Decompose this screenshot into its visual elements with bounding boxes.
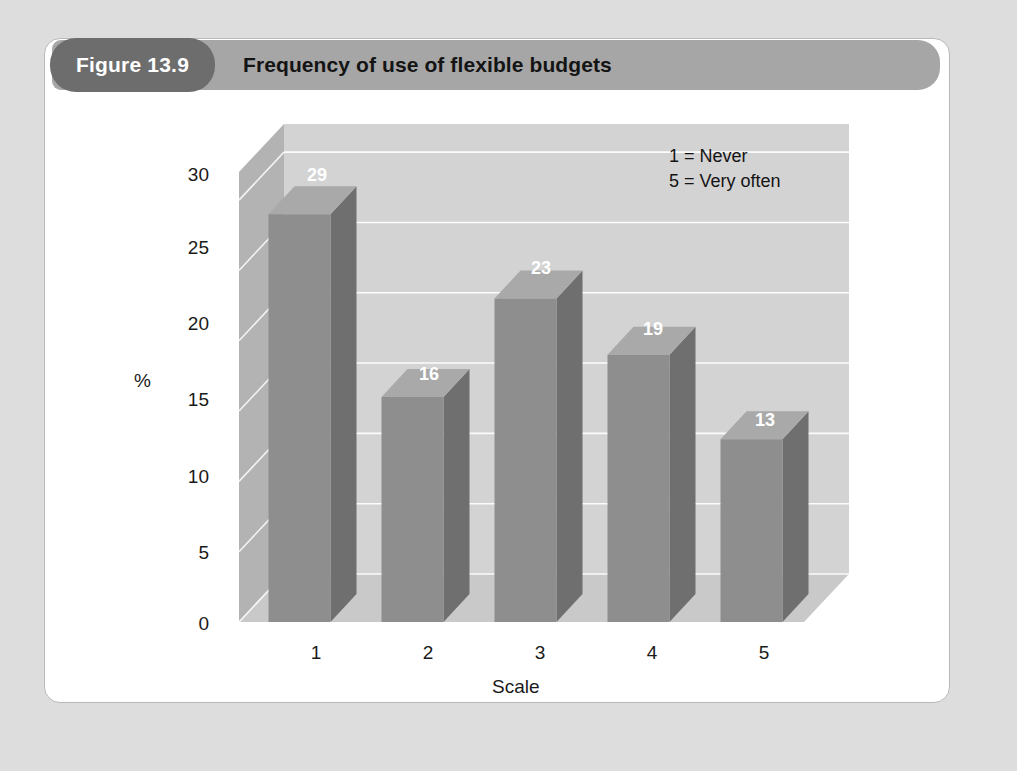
chart-area: 30 25 20 15 10 5 0 % 1 2 3 4 5 Scale 29 … — [44, 92, 950, 703]
bar-value-5: 13 — [735, 410, 795, 431]
x-tick-5: 5 — [744, 642, 784, 664]
y-tick-10: 10 — [169, 466, 209, 488]
x-tick-3: 3 — [520, 642, 560, 664]
y-tick-25: 25 — [169, 237, 209, 259]
bar-value-2: 16 — [399, 364, 459, 385]
page-background: Figure 13.9 Frequency of use of flexible… — [0, 0, 1017, 771]
y-tick-15: 15 — [169, 389, 209, 411]
y-tick-20: 20 — [169, 313, 209, 335]
figure-number-badge: Figure 13.9 — [50, 38, 215, 92]
x-axis-title: Scale — [492, 676, 540, 698]
y-tick-30: 30 — [169, 164, 209, 186]
x-tick-4: 4 — [632, 642, 672, 664]
chart-legend: 1 = Never 5 = Very often — [669, 144, 781, 194]
y-tick-5: 5 — [169, 542, 209, 564]
figure-number-label: Figure 13.9 — [76, 53, 189, 77]
y-axis-title: % — [134, 370, 151, 392]
bar-value-3: 23 — [511, 258, 571, 279]
legend-line-never: 1 = Never — [669, 144, 781, 169]
bar-value-1: 29 — [287, 165, 347, 186]
x-tick-2: 2 — [408, 642, 448, 664]
legend-line-very-often: 5 = Very often — [669, 169, 781, 194]
bar-value-4: 19 — [623, 319, 683, 340]
figure-title: Frequency of use of flexible budgets — [243, 40, 612, 90]
x-tick-1: 1 — [296, 642, 336, 664]
y-tick-0: 0 — [169, 613, 209, 635]
